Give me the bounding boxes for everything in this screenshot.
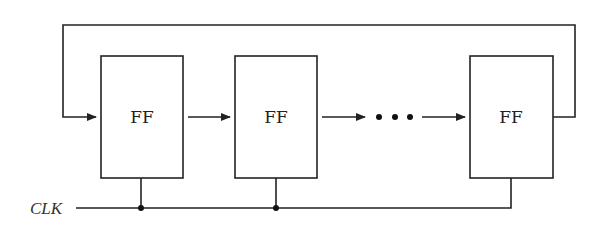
flip-flop-1: FF (101, 56, 183, 178)
clock-label: CLK (30, 199, 64, 218)
ff-label: FF (264, 107, 288, 127)
ring-counter-diagram: FF FF FF CLK (0, 0, 604, 235)
junction-dot-icon (138, 205, 144, 211)
flip-flop-2: FF (235, 56, 317, 178)
ff-label: FF (499, 107, 523, 127)
junction-dot-icon (273, 205, 279, 211)
ellipsis-icon (376, 114, 413, 120)
ff-label: FF (130, 107, 154, 127)
flip-flop-3: FF (470, 56, 553, 178)
